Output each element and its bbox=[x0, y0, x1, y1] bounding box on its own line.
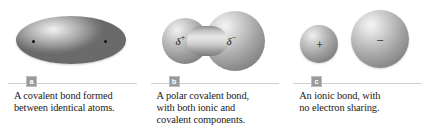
negative-charge-label: − bbox=[376, 34, 383, 47]
electron-dot-left bbox=[32, 40, 35, 43]
panel-a-artwork bbox=[0, 0, 143, 78]
panel-a-rule-row: a bbox=[0, 76, 143, 90]
panel-c: + − c An ionic bond, with no electron sh… bbox=[285, 0, 428, 136]
panel-b-rule-row: b bbox=[143, 76, 286, 90]
caption-line: A polar covalent bond, bbox=[157, 90, 283, 102]
panel-b-artwork: δ+ δ− bbox=[143, 0, 286, 78]
caption-line: An ionic bond, with bbox=[299, 90, 425, 102]
caption-line: A covalent bond formed bbox=[14, 90, 140, 102]
dumbbell-neck bbox=[187, 26, 227, 56]
panel-badge-c: c bbox=[311, 76, 322, 87]
caption-line: no electron sharing. bbox=[299, 102, 425, 114]
panel-b: δ+ δ− b A polar covalent bond, with both… bbox=[143, 0, 286, 136]
polar-dumbbell-group: δ+ δ− bbox=[143, 0, 286, 78]
positive-charge-label: + bbox=[316, 39, 323, 51]
panel-a: a A covalent bond formed between identic… bbox=[0, 0, 143, 136]
panel-a-caption: A covalent bond formed between identical… bbox=[14, 90, 140, 114]
caption-line: covalent components. bbox=[157, 114, 283, 126]
delta-positive-label: δ+ bbox=[176, 33, 186, 47]
bond-types-figure: a A covalent bond formed between identic… bbox=[0, 0, 428, 136]
electron-dot-right bbox=[104, 40, 107, 43]
panel-badge-a: a bbox=[26, 76, 37, 87]
delta-negative-label: δ− bbox=[227, 33, 237, 47]
caption-line: with both ionic and bbox=[157, 102, 283, 114]
caption-line: between identical atoms. bbox=[14, 102, 140, 114]
panel-badge-b: b bbox=[169, 76, 180, 87]
panel-b-caption: A polar covalent bond, with both ionic a… bbox=[157, 90, 283, 126]
covalent-cloud-group bbox=[0, 0, 143, 78]
panel-c-rule-row: c bbox=[285, 76, 428, 90]
delta-charge-sign: − bbox=[232, 33, 237, 42]
panel-c-artwork: + − bbox=[285, 0, 428, 78]
delta-charge-sign: + bbox=[181, 33, 186, 42]
panel-c-caption: An ionic bond, with no electron sharing. bbox=[299, 90, 425, 114]
ionic-pair-group: + − bbox=[285, 0, 428, 78]
